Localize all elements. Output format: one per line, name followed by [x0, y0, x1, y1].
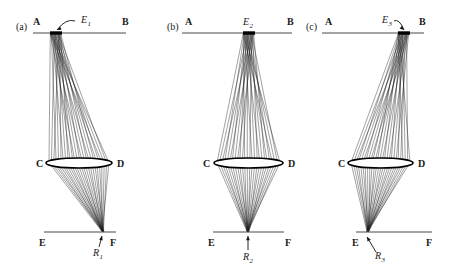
point-label-f-b: F: [285, 237, 291, 248]
point-label-d-c: D: [418, 158, 425, 169]
point-label-c-a: C: [36, 158, 43, 169]
focus-label-a-subscript: 1: [99, 253, 103, 261]
emitter-label-b-subscript: 2: [249, 22, 253, 30]
emitter-label-b-text: E: [242, 16, 249, 27]
point-label-a-b: A: [185, 16, 193, 27]
panel-label-a: (a): [16, 21, 27, 33]
lens-c: [348, 158, 413, 168]
point-label-e-b: E: [208, 237, 215, 248]
lens-b: [214, 158, 283, 168]
point-label-b-c: B: [419, 16, 426, 27]
focus-label-a-text: R: [92, 247, 99, 258]
focus-label-c-subscript: 3: [380, 256, 385, 264]
point-label-e-a: E: [39, 237, 46, 248]
emitter-label-a-text: E: [80, 14, 87, 25]
point-label-d-a: D: [117, 158, 124, 169]
point-label-b-a: B: [122, 16, 129, 27]
ray-trace-figure: (a)ABCDEFE1R1(b)ABCDEFE2R2(c)ABCDEFE3R3: [0, 0, 452, 270]
point-label-d-b: D: [288, 158, 295, 169]
point-label-b-b: B: [287, 16, 294, 27]
panel-label-b: (b): [167, 21, 179, 33]
emitter-label-c-text: E: [381, 14, 388, 25]
lens-a: [46, 158, 112, 168]
point-label-c-c: C: [338, 158, 345, 169]
point-label-f-c: F: [426, 237, 432, 248]
focus-label-b-text: R: [242, 251, 249, 262]
point-label-c-b: C: [203, 158, 210, 169]
focus-label-c-text: R: [374, 250, 381, 261]
panel-label-c: (c): [306, 21, 317, 33]
point-label-e-c: E: [352, 237, 359, 248]
point-label-a-c: A: [325, 16, 333, 27]
emitter-label-c-subscript: 3: [387, 20, 392, 28]
point-label-a-a: A: [33, 16, 41, 27]
point-label-f-a: F: [110, 237, 116, 248]
emitter-label-a-subscript: 1: [87, 20, 91, 28]
focus-label-b-subscript: 2: [249, 257, 253, 265]
